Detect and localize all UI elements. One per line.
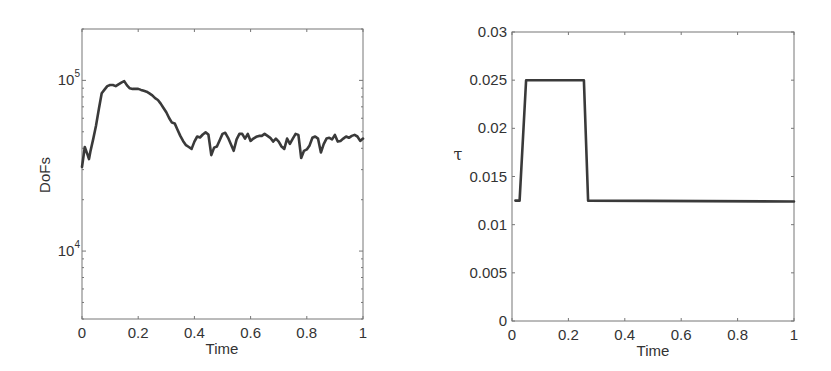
tau-x-axis-label: Time xyxy=(637,342,670,359)
x-tick-label: 0 xyxy=(78,324,86,341)
dofs-plot-frame xyxy=(82,29,363,319)
dofs-y-axis-label: DoFs xyxy=(36,157,53,193)
x-tick-label: 0.2 xyxy=(128,324,149,341)
y-tick-label: 104 xyxy=(58,239,81,259)
tau-y-tick-labels: 00.0050.010.0150.020.0250.03 xyxy=(469,23,507,329)
tau-axis-ticks xyxy=(512,32,794,321)
x-tick-label: 0 xyxy=(508,326,516,343)
x-tick-label: 0.6 xyxy=(240,324,261,341)
x-tick-label: 1 xyxy=(359,324,367,341)
y-tick-label: 0.01 xyxy=(478,216,507,233)
x-tick-label: 1 xyxy=(790,326,798,343)
y-tick-label: 0.005 xyxy=(469,264,507,281)
y-tick-label: 0 xyxy=(499,312,507,329)
dofs-chart: 00.20.40.60.81 104105 Time DoFs xyxy=(36,29,367,357)
tau-plot-frame xyxy=(512,32,794,321)
tau-chart: 00.20.40.60.81 00.0050.010.0150.020.0250… xyxy=(454,23,799,359)
y-tick-label: 0.02 xyxy=(478,119,507,136)
dofs-x-tick-labels: 00.20.40.60.81 xyxy=(78,324,367,341)
tau-y-axis-label: τ xyxy=(454,145,463,164)
x-tick-label: 0.4 xyxy=(184,324,205,341)
tau-line xyxy=(515,80,794,201)
x-tick-label: 0.6 xyxy=(671,326,692,343)
dofs-x-axis-label: Time xyxy=(206,340,239,357)
y-tick-label: 0.03 xyxy=(478,23,507,40)
tau-x-tick-labels: 00.20.40.60.81 xyxy=(508,326,798,343)
dofs-axis-ticks xyxy=(82,29,363,319)
y-tick-label: 105 xyxy=(58,68,81,88)
x-tick-label: 0.2 xyxy=(558,326,579,343)
x-tick-label: 0.8 xyxy=(727,326,748,343)
dofs-y-tick-labels: 104105 xyxy=(58,68,81,259)
y-tick-label: 0.025 xyxy=(469,71,507,88)
x-tick-label: 0.4 xyxy=(614,326,635,343)
figure: 00.20.40.60.81 104105 Time DoFs 00.20.40… xyxy=(0,0,831,371)
y-tick-label: 0.015 xyxy=(469,168,507,185)
x-tick-label: 0.8 xyxy=(296,324,317,341)
dofs-line xyxy=(82,81,363,167)
